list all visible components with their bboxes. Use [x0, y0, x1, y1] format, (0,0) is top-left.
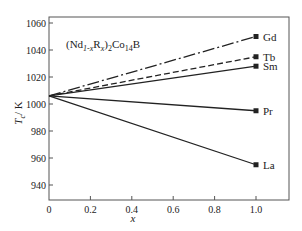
x-tick-label: 0.2	[84, 204, 97, 215]
series-label-sm: Sm	[263, 60, 278, 72]
x-tick-label: 0	[47, 204, 52, 215]
series-marker-tb	[254, 54, 259, 59]
series-label-pr: Pr	[263, 105, 273, 117]
series-marker-pr	[254, 108, 259, 113]
y-tick-label: 960	[31, 153, 46, 164]
x-tick-label: 1.0	[250, 204, 263, 215]
series-marker-gd	[254, 34, 259, 39]
x-axis-label: x	[130, 212, 136, 224]
y-tick-label: 1000	[26, 99, 46, 110]
series-label-la: La	[263, 159, 275, 171]
x-tick-label: 0.6	[167, 204, 180, 215]
y-tick-label: 1060	[26, 18, 46, 29]
y-tick-label: 980	[31, 126, 46, 137]
series-line-la	[49, 96, 256, 165]
y-tick-label: 940	[31, 180, 46, 191]
series-line-tb	[49, 57, 256, 96]
y-tick-label: 1020	[26, 72, 46, 83]
x-axis-ticks: 00.20.40.60.81.0	[47, 196, 263, 215]
y-axis-label: Tc/ K	[12, 101, 27, 124]
y-tick-label: 1040	[26, 45, 46, 56]
series-label-gd: Gd	[263, 31, 277, 43]
series-line-sm	[49, 66, 256, 96]
series-marker-sm	[254, 64, 259, 69]
chart-title: (Nd1-xRx)2Co14B	[66, 38, 140, 53]
chart: 00.20.40.60.81.0 94096098010001020104010…	[0, 0, 302, 231]
series-line-pr	[49, 96, 256, 111]
series-marker-la	[254, 162, 259, 167]
x-tick-label: 0.8	[208, 204, 221, 215]
